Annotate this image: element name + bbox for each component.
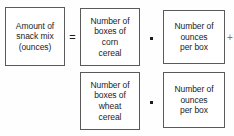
box-corn-boxes-label: Number of boxes of corn cereal [90,16,129,58]
box-wheat-boxes-label: Number of boxes of wheat cereal [90,80,129,122]
box-number-of-ounces-per-box-corn: Number of ounces per box [163,10,225,64]
box-amount-of-snack-mix: Amount of snack mix (ounces) [5,7,65,66]
box-number-of-boxes-of-wheat-cereal: Number of boxes of wheat cereal [80,72,140,130]
equals-operator: = [65,29,80,45]
box-number-of-ounces-per-box-wheat: Number of ounces per box [163,72,225,128]
box-wheat-ounces-label: Number of ounces per box [174,84,213,116]
multiplication-dot-bottom-icon [145,96,157,108]
plus-operator-clipped: + [227,30,234,44]
box-amount-label: Amount of snack mix (ounces) [16,21,54,53]
box-corn-ounces-label: Number of ounces per box [174,21,213,53]
multiplication-dot-top-icon [145,32,157,44]
box-number-of-boxes-of-corn-cereal: Number of boxes of corn cereal [80,8,140,66]
equation-diagram: Amount of snack mix (ounces) = Number of… [0,0,234,136]
